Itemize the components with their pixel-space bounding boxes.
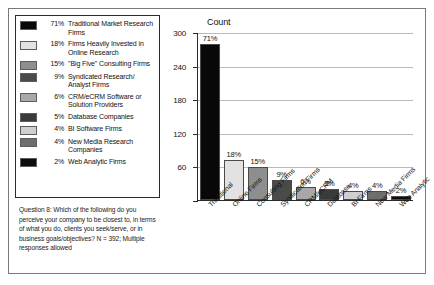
bar-chart: Count 60120180240300 71%18%15%9%6%5%4%4%… <box>167 17 419 267</box>
bar-slot: 4% <box>366 33 388 200</box>
legend-percent: 15% <box>41 60 64 69</box>
legend-swatch-icon <box>20 41 37 50</box>
legend-percent: 71% <box>41 20 64 29</box>
y-axis-tick-label: 180 <box>173 96 186 105</box>
legend-percent: 4% <box>41 125 64 134</box>
legend-swatch-icon <box>20 158 37 167</box>
legend-item: 4% BI Software Firms <box>20 125 156 135</box>
y-axis-tick-label: 120 <box>173 129 186 138</box>
legend-label: New Media Research Companies <box>68 138 156 155</box>
legend-item: 71% Traditional Market Research Firms <box>20 20 156 37</box>
legend-percent: 4% <box>41 138 64 147</box>
bar-slot: 18% <box>223 33 245 200</box>
legend-label: Firms Heavily Invested in Online Researc… <box>68 40 156 57</box>
y-axis-tick-label: 60 <box>178 163 187 172</box>
y-axis-tick-label: 240 <box>173 62 186 71</box>
figure-frame: 71% Traditional Market Research Firms 18… <box>8 8 426 274</box>
chart-title: Count <box>207 17 231 27</box>
legend-item: 2% Web Analytic Firms <box>20 158 156 168</box>
legend-label: CRM/eCRM Software or Solution Providers <box>68 93 156 110</box>
legend-percent: 5% <box>41 113 64 122</box>
bar[interactable] <box>200 44 220 200</box>
chart-legend: 71% Traditional Market Research Firms 18… <box>15 15 160 198</box>
legend-label: Traditional Market Research Firms <box>68 20 156 37</box>
legend-percent: 2% <box>41 158 64 167</box>
legend-percent: 6% <box>41 93 64 102</box>
legend-item: 6% CRM/eCRM Software or Solution Provide… <box>20 93 156 110</box>
legend-item: 9% Syndicated Research/ Analyst Firms <box>20 73 156 90</box>
legend-item: 5% Database Companies <box>20 113 156 123</box>
legend-percent: 9% <box>41 73 64 82</box>
legend-swatch-icon <box>20 61 37 70</box>
x-axis-labels: TraditionalOnline FirmsConsulting FirmsS… <box>198 203 414 267</box>
legend-label: Web Analytic Firms <box>68 158 126 167</box>
legend-item: 15% "Big Five" Consulting Firms <box>20 60 156 70</box>
legend-label: BI Software Firms <box>68 125 122 134</box>
legend-label: "Big Five" Consulting Firms <box>68 60 150 69</box>
legend-item: 18% Firms Heavily Invested in Online Res… <box>20 40 156 57</box>
legend-item: 4% New Media Research Companies <box>20 138 156 155</box>
bar-slot: 4% <box>342 33 364 200</box>
legend-swatch-icon <box>20 138 37 147</box>
legend-swatch-icon <box>20 126 37 135</box>
legend-swatch-icon <box>20 21 37 30</box>
legend-label: Syndicated Research/ Analyst Firms <box>68 73 156 90</box>
figure-caption: Question 8: Which of the following do yo… <box>19 205 162 253</box>
legend-swatch-icon <box>20 113 37 122</box>
bar-value-label: 15% <box>243 157 273 166</box>
bar-slot: 71% <box>199 33 221 200</box>
legend-label: Database Companies <box>68 113 134 122</box>
legend-swatch-icon <box>20 73 37 82</box>
y-axis-tick-label: 300 <box>173 29 186 38</box>
legend-swatch-icon <box>20 93 37 102</box>
legend-percent: 18% <box>41 40 64 49</box>
bar-value-label: 71% <box>195 34 225 43</box>
y-axis-tick <box>193 201 198 202</box>
bar-slot: 5% <box>318 33 340 200</box>
